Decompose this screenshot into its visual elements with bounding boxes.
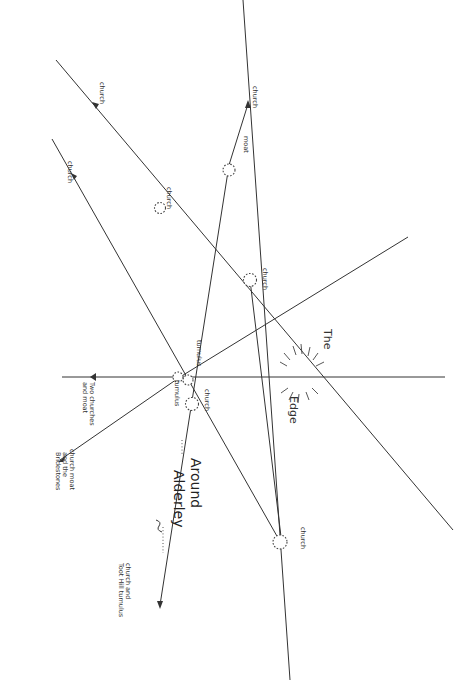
label-church-bottom-right: church [299,527,307,549]
ley-line-diagram: church moat church church church church … [0,0,465,696]
site-moat [223,164,235,176]
label-moat: moat [242,136,250,153]
ley-line-church-south [250,280,282,545]
site-church-center [186,398,199,411]
edge-sunburst-icon [280,344,324,403]
site-church-mid-upper [155,203,166,214]
title-alderley: Alderley [171,470,187,528]
ley-line-moat-to-tumulus [160,165,229,605]
title-around: Around [188,458,204,508]
site-tumulus-second [183,375,193,385]
ley-line-churches-to-edge [56,60,453,530]
label-edge: Edge [287,396,300,424]
label-the: The [321,328,334,350]
arrowhead-icon [92,102,99,109]
arrowhead-icon [90,373,96,381]
label-church-center: church [203,389,211,411]
label-church-toot-2: Toot Hill tumulus [117,562,125,618]
label-church-mid-upper: church [165,187,173,209]
label-church-moat-3: Bridestones [54,452,62,491]
label-church-left-upper: church [98,82,106,104]
label-church-right-mid: church [261,268,269,290]
ley-line-moat-arrow [229,104,248,165]
label-church-left-arrow: church [66,161,74,183]
label-tumulus-2: tumulus [173,380,181,407]
label-tumulus-1: tumulus [195,340,203,367]
ley-line-bridestones [60,377,180,460]
title-brace-icon [156,520,162,532]
ley-line-moat-to-south [243,0,290,680]
site-church-right-mid [244,274,257,287]
label-church-top: church [251,86,259,108]
site-church-bottom-right [273,535,287,549]
label-two-churches-2: and moat [81,382,89,414]
arrowhead-icon [157,601,163,609]
